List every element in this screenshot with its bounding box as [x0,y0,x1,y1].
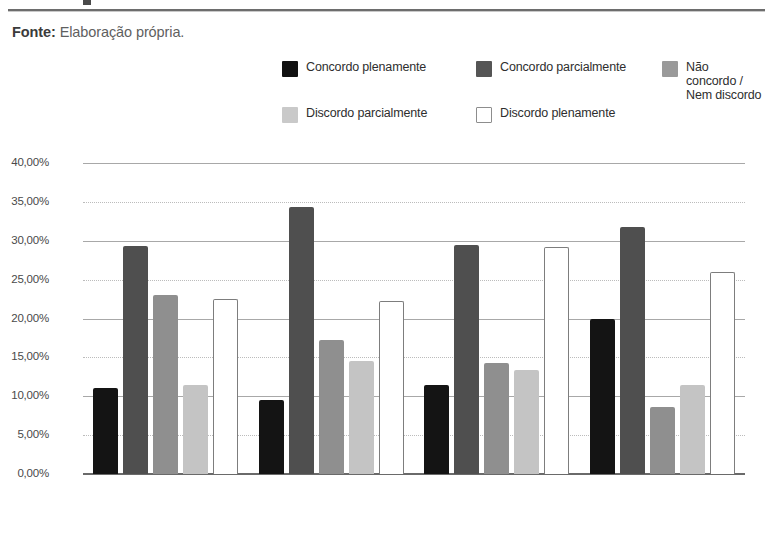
legend-item-concordo-plenamente[interactable]: Concordo plenamente [282,60,426,77]
legend-item-label: Discordo plenamente [500,106,615,120]
bar[interactable] [454,245,479,474]
bar[interactable] [259,400,284,474]
y-axis-tick-label: 5,00% [0,428,49,440]
y-axis-tick-label: 25,00% [0,273,49,285]
legend-swatch-icon [282,107,298,123]
bar[interactable] [289,207,314,474]
bar[interactable] [484,363,509,474]
y-axis-tick-label: 30,00% [0,234,49,246]
legend-item-label: Concordo parcialmente [500,60,626,74]
legend-item-nao-concordo-nem-discordo[interactable]: Não concordo / Nem discordo [662,60,762,102]
header-divider [8,9,765,11]
legend-item-discordo-plenamente[interactable]: Discordo plenamente [476,106,615,123]
bar[interactable] [123,246,148,474]
source-text: Elaboração própria. [56,24,185,40]
bar[interactable] [153,295,178,474]
bar-group [424,163,569,474]
legend-item-label: Discordo parcialmente [306,106,427,120]
legend-swatch-icon [476,107,492,123]
bar[interactable] [620,227,645,474]
bar[interactable] [213,299,238,474]
bar-group [590,163,735,474]
source-label: Fonte: [12,24,56,40]
bar[interactable] [424,385,449,474]
y-axis-tick-label: 35,00% [0,195,49,207]
legend-item-discordo-parcialmente[interactable]: Discordo parcialmente [282,106,427,123]
legend-swatch-icon [662,61,678,77]
y-axis-tick-label: 10,00% [0,389,49,401]
legend-item-label: Concordo plenamente [306,60,426,74]
legend-row-1: Concordo plenamente Concordo parcialment… [282,60,762,100]
legend-swatch-icon [282,61,298,77]
bar[interactable] [319,340,344,474]
bar[interactable] [379,301,404,474]
source-line: Fonte: Elaboração própria. [12,24,184,40]
bar[interactable] [650,407,675,474]
legend-row-2: Discordo parcialmente Discordo plenament… [282,106,762,146]
chart-page: Fonte: Elaboração própria. Concordo plen… [0,0,773,551]
legend-item-concordo-parcialmente[interactable]: Concordo parcialmente [476,60,626,77]
y-axis-tick-label: 40,00% [0,156,49,168]
y-axis-tick-label: 20,00% [0,312,49,324]
bar[interactable] [514,370,539,474]
bar-group [93,163,238,474]
legend-swatch-icon [476,61,492,77]
bar[interactable] [349,361,374,474]
bar[interactable] [183,385,208,474]
header-text-fragment [83,0,91,5]
chart-plot-area: 40,00%35,00%30,00%25,00%20,00%15,00%10,0… [83,163,745,474]
bar[interactable] [93,388,118,474]
bar[interactable] [680,385,705,474]
y-axis-tick-label: 15,00% [0,350,49,362]
bar[interactable] [544,247,569,474]
legend-item-label: Não concordo / Nem discordo [686,60,762,102]
bar[interactable] [710,272,735,474]
y-axis-tick-label: 0,00% [0,467,49,479]
bar-group [259,163,404,474]
bar[interactable] [590,319,615,475]
